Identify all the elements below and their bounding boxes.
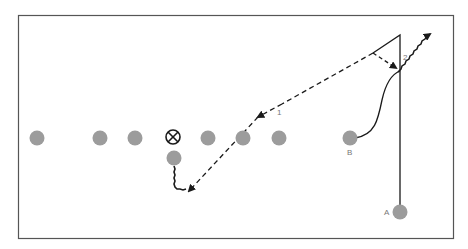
- route-b-curve: [355, 71, 400, 138]
- player-dot: [30, 131, 45, 146]
- field-border: [19, 16, 454, 239]
- player-dot: [272, 131, 287, 146]
- route-1-dashed-a: [282, 53, 373, 104]
- quarterback-icon: [166, 130, 180, 144]
- route-1-label: 1: [277, 108, 282, 117]
- receiver-b-dot: [343, 131, 358, 146]
- player-dot: [93, 131, 108, 146]
- route-1-dashed-c: [189, 117, 258, 191]
- receiver-a-label: A: [384, 208, 390, 217]
- receiver-b-label: B: [347, 148, 352, 157]
- route-2-label: 2: [403, 53, 408, 62]
- player-dot: [128, 131, 143, 146]
- back-wavy-path: [174, 166, 186, 190]
- route-2-dashed: [373, 53, 396, 68]
- play-diagram: B A 1 2: [0, 0, 468, 249]
- back-dot: [167, 151, 182, 166]
- receiver-a-dot: [393, 205, 408, 220]
- player-dot: [236, 131, 251, 146]
- player-dot: [201, 131, 216, 146]
